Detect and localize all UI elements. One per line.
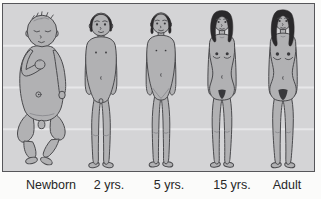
figure-panel [2, 3, 315, 172]
toddler-groin [99, 99, 103, 104]
newborn-right-calf [43, 139, 59, 157]
teen-right-leg [222, 97, 232, 164]
figure-2yrs [85, 13, 117, 168]
child-right-eye [164, 22, 166, 24]
figure-5yrs [146, 13, 176, 168]
adult-left-areola [276, 52, 279, 55]
child-head [152, 13, 170, 33]
newborn-right-foot [39, 156, 53, 167]
toddler-left-eye [96, 23, 98, 25]
figure-adult [269, 10, 298, 169]
newborn-right-hand [59, 91, 65, 99]
toddler-right-eye [104, 23, 106, 25]
adult-right-eye [285, 20, 287, 22]
teen-left-leg [212, 97, 222, 164]
stage-label-15yrs: 15 yrs. [213, 178, 251, 192]
newborn-groin [38, 120, 45, 128]
teen-right-eye [224, 21, 226, 23]
figure-15yrs [208, 11, 236, 168]
child-left-eye [156, 22, 158, 24]
newborn-fist [35, 60, 45, 69]
stage-label-5yrs: 5 yrs. [154, 178, 185, 192]
stage-label-adult: Adult [273, 178, 302, 192]
figure-canvas [3, 4, 314, 171]
child-left-nipple [156, 50, 158, 52]
figure-newborn [17, 12, 65, 167]
newborn-left-foot [25, 156, 38, 165]
toddler-left-leg [92, 99, 101, 164]
teen-left-areola [215, 52, 218, 55]
body-proportions-figure: Newborn 2 yrs. 5 yrs. 15 yrs. Adult [0, 0, 321, 199]
adult-left-leg [273, 98, 283, 164]
teen-right-areola [226, 52, 229, 55]
child-right-nipple [165, 50, 167, 52]
adult-left-eye [279, 20, 281, 22]
stage-label-2yrs: 2 yrs. [94, 178, 125, 192]
adult-right-areola [287, 52, 290, 55]
toddler-right-leg [101, 99, 110, 164]
newborn-navel-dot [38, 94, 40, 96]
stage-labels: Newborn 2 yrs. 5 yrs. 15 yrs. Adult [0, 178, 321, 194]
stage-label-newborn: Newborn [26, 178, 76, 192]
toddler-left-nipple [95, 52, 97, 54]
newborn-head [27, 15, 57, 47]
newborn-left-calf [24, 141, 36, 159]
toddler-right-nipple [105, 52, 107, 54]
teen-left-eye [218, 21, 220, 23]
adult-right-leg [283, 98, 293, 164]
